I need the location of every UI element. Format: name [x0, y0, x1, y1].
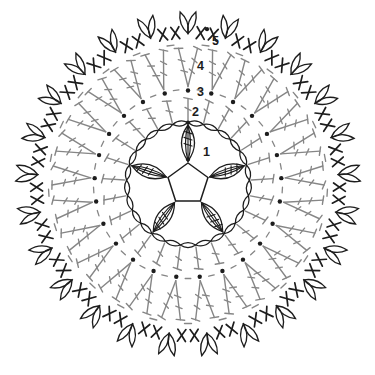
crochet-chart: 12345 — [0, 0, 375, 375]
round5-picot-leaves — [16, 12, 361, 356]
round-3-label: 3 — [197, 85, 204, 99]
round-1-label: 1 — [203, 145, 210, 159]
center-pentagon-ring — [168, 163, 208, 201]
round4-dc-pairs — [49, 45, 328, 323]
round-2-label: 2 — [192, 105, 199, 119]
round1-petal-clusters — [132, 125, 244, 232]
round-4-label: 4 — [197, 59, 204, 73]
round-5-label: 5 — [212, 34, 219, 48]
crochet-chart-svg: 12345 — [0, 0, 375, 375]
